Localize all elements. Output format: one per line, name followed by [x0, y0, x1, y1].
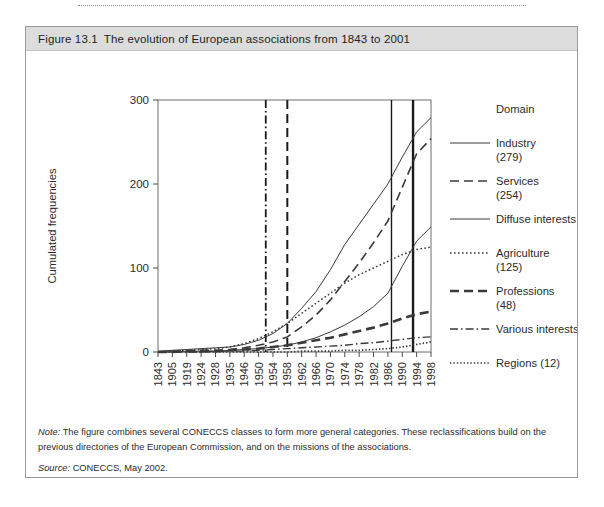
legend-item-professions-count: (48) [496, 299, 516, 311]
x-axis: 1843190519191924192819351946195019541958… [152, 352, 437, 386]
x-tick-label: 1994 [411, 362, 423, 386]
series-line-services [158, 139, 431, 352]
x-tick-label: 1935 [224, 362, 236, 386]
legend-item-professions-label: Professions [496, 285, 555, 297]
source-line: Source: CONECCS, May 2002. [38, 461, 565, 476]
x-tick-label: 1843 [152, 362, 164, 386]
legend-item-agriculture-count: (125) [496, 261, 522, 273]
legend-item-various-interests-18--label: Various interests (18) [496, 323, 577, 335]
plot-frame [158, 100, 431, 352]
series-line-diffuse-interests [158, 227, 431, 352]
x-tick-label: 1919 [181, 362, 193, 386]
x-tick-label: 1982 [368, 362, 380, 386]
x-tick-label: 1966 [310, 362, 322, 386]
note-text: The figure combines several CONECCS clas… [38, 427, 546, 452]
legend-item-services-label: Services [496, 175, 539, 187]
figure-title-bar: Figure 13.1The evolution of European ass… [26, 27, 577, 51]
legend-item-services-count: (254) [496, 189, 522, 201]
x-tick-label: 1990 [396, 362, 408, 386]
y-axis: 0100200300 [130, 94, 158, 358]
series-group [158, 118, 431, 352]
source-text: CONECCS, May 2002. [70, 463, 168, 473]
y-tick-label: 200 [130, 178, 149, 190]
x-tick-label: 1924 [195, 362, 207, 386]
figure-notes: Note: The figure combines several CONECC… [38, 425, 565, 476]
x-tick-label: 1954 [267, 362, 279, 386]
chart-area: 0100200300Cumulated frequencies184319051… [26, 51, 577, 403]
y-tick-label: 100 [130, 262, 149, 274]
note-label: Note: [38, 427, 60, 437]
legend-title: Domain [496, 103, 535, 115]
x-tick-label: 1958 [281, 362, 293, 386]
x-tick-label: 1998 [425, 362, 437, 386]
page-title: Figure 13.1The evolution of European ass… [38, 33, 410, 45]
note-line: Note: The figure combines several CONECC… [38, 425, 565, 454]
figure-number: Figure 13.1 [38, 33, 98, 45]
y-axis-title: Cumulated frequencies [46, 168, 58, 283]
x-tick-label: 1978 [353, 362, 365, 386]
x-tick-label: 1962 [296, 362, 308, 386]
y-tick-label: 0 [143, 346, 149, 358]
page-top-rule [78, 5, 526, 6]
x-tick-label: 1905 [166, 362, 178, 386]
figure-container: Figure 13.1The evolution of European ass… [25, 26, 578, 478]
evolution-line-chart: 0100200300Cumulated frequencies184319051… [26, 51, 577, 403]
series-line-professions [158, 312, 431, 352]
legend-item-diffuse-interests-149--label: Diffuse interests (149) [496, 213, 577, 225]
series-line-agriculture [158, 247, 431, 352]
x-tick-label: 1946 [238, 362, 250, 386]
legend-item-industry-count: (279) [496, 151, 522, 163]
source-label: Source: [38, 463, 70, 473]
series-line-industry [158, 118, 431, 352]
legend-item-agriculture-label: Agriculture [496, 247, 549, 259]
figure-title-text: The evolution of European associations f… [104, 33, 410, 45]
x-tick-label: 1950 [253, 362, 265, 386]
legend-item-industry-label: Industry [496, 137, 536, 149]
event-vlines [266, 100, 413, 352]
x-tick-label: 1986 [382, 362, 394, 386]
x-tick-label: 1974 [339, 362, 351, 386]
legend: DomainIndustry(279)Services(254)Diffuse … [450, 103, 577, 369]
y-tick-label: 300 [130, 94, 149, 106]
legend-item-regions-12--label: Regions (12) [496, 357, 560, 369]
x-tick-label: 1970 [324, 362, 336, 386]
x-tick-label: 1928 [209, 362, 221, 386]
